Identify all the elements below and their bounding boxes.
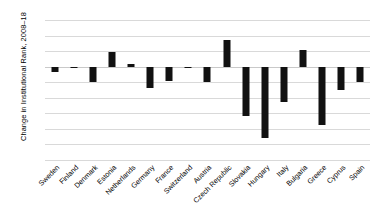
bar[interactable] <box>319 67 326 125</box>
y-axis-title: Change in Institutional Rank, 2008–18 <box>19 2 28 152</box>
bar-slot <box>83 20 102 160</box>
bar-slot <box>217 20 236 160</box>
bar[interactable] <box>166 67 173 81</box>
bar-slot <box>351 20 370 160</box>
bar[interactable] <box>185 67 192 69</box>
bar[interactable] <box>300 50 307 67</box>
bar-slot <box>274 20 293 160</box>
bar[interactable] <box>128 64 135 67</box>
bar[interactable] <box>108 52 115 67</box>
bar[interactable] <box>357 67 364 83</box>
x-axis-tick-label: Cyprus <box>325 163 347 185</box>
bar[interactable] <box>70 67 77 69</box>
bar[interactable] <box>338 67 345 90</box>
plot-area: 3020100–10–20–30–40–50–60 <box>45 20 370 160</box>
x-axis-labels: SwedenFinlandDenmarkEstoniaNetherlandsGe… <box>45 160 370 221</box>
bar[interactable] <box>89 67 96 83</box>
bar-slot <box>332 20 351 160</box>
x-axis-tick-label: Spain <box>347 163 366 182</box>
bar-slot <box>198 20 217 160</box>
bar[interactable] <box>147 67 154 88</box>
bar[interactable] <box>280 67 287 103</box>
x-axis-tick-label: Sweden <box>36 163 61 188</box>
bar-slot <box>141 20 160 160</box>
bar[interactable] <box>261 67 268 139</box>
x-axis-tick-label: Greece <box>306 163 329 186</box>
bar-slot <box>102 20 121 160</box>
bar-slot <box>255 20 274 160</box>
bar[interactable] <box>51 67 58 72</box>
bar-slot <box>64 20 83 160</box>
bar[interactable] <box>204 67 211 83</box>
bar-slot <box>45 20 64 160</box>
bar-slot <box>121 20 140 160</box>
bars-group <box>45 20 370 160</box>
bar[interactable] <box>223 40 230 66</box>
bar-slot <box>294 20 313 160</box>
bar-chart: Change in Institutional Rank, 2008–18 30… <box>0 0 376 221</box>
bar-slot <box>179 20 198 160</box>
bar-slot <box>236 20 255 160</box>
bar-slot <box>160 20 179 160</box>
bar[interactable] <box>242 67 249 117</box>
bar-slot <box>313 20 332 160</box>
